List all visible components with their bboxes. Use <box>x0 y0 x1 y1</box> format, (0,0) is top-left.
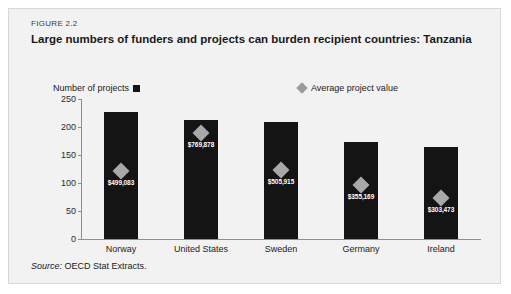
y-axis-tick-label: 100 <box>61 178 76 188</box>
y-axis-tick-label: 150 <box>61 150 76 160</box>
source-label: Source: <box>31 261 62 271</box>
source-text: OECD Stat Extracts. <box>62 261 147 271</box>
x-axis-line <box>81 239 481 240</box>
x-axis-category-label: Ireland <box>427 244 455 254</box>
bar-group: $505,915Sweden <box>241 99 321 239</box>
x-axis-category-label: Germany <box>342 244 379 254</box>
bar-group: $303,473Ireland <box>401 99 481 239</box>
y-axis-tick-label: 50 <box>66 206 76 216</box>
y-axis-tick-mark <box>78 239 81 240</box>
source-note: Source: OECD Stat Extracts. <box>31 261 147 271</box>
bar-group: $769,878United States <box>161 99 241 239</box>
x-axis-category-label: United States <box>174 244 228 254</box>
figure-card: FIGURE 2.2 Large numbers of funders and … <box>8 8 501 284</box>
legend-number-of-projects: Number of projects <box>53 83 140 93</box>
average-project-value-label: $355,169 <box>348 193 374 200</box>
figure-title: Large numbers of funders and projects ca… <box>31 32 481 46</box>
legend-bars-label: Number of projects <box>53 83 129 93</box>
y-axis-tick-label: 250 <box>61 94 76 104</box>
legend-markers-label: Average project value <box>311 83 398 93</box>
figure-number: FIGURE 2.2 <box>31 19 78 28</box>
legend-average-project-value: Average project value <box>298 83 398 93</box>
filled-diamond-icon <box>296 82 307 93</box>
filled-square-icon <box>133 85 140 92</box>
average-project-value-label: $769,878 <box>188 141 214 148</box>
bar-group: $355,169Germany <box>321 99 401 239</box>
average-project-value-label: $303,473 <box>428 206 454 213</box>
average-project-value-label: $499,083 <box>108 179 134 186</box>
bar-group: $499,083Norway <box>81 99 161 239</box>
x-axis-category-label: Norway <box>106 244 137 254</box>
average-project-value-label: $505,915 <box>268 178 294 185</box>
chart-plot-area: 050100150200250 $499,083Norway$769,878Un… <box>81 99 481 239</box>
x-axis-category-label: Sweden <box>265 244 298 254</box>
y-axis-tick-label: 0 <box>71 234 76 244</box>
bar-series: $499,083Norway$769,878United States$505,… <box>81 99 481 239</box>
y-axis-tick-label: 200 <box>61 122 76 132</box>
